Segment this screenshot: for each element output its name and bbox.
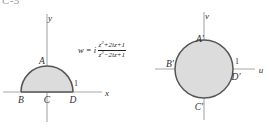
- w-plane-diagram: v u 1 A′ B′ C′ D′: [133, 0, 267, 131]
- point-label-c: C: [44, 95, 51, 105]
- point-label-a: A: [38, 56, 45, 66]
- point-label-a-prime: A′: [195, 34, 205, 44]
- v-axis-label: v: [205, 11, 209, 21]
- point-label-b-prime: B′: [166, 59, 175, 69]
- x-tick-label-1: 1: [74, 79, 78, 88]
- mapping-formula-fraction: z2+2iz+1 z2−2iz+1: [98, 41, 126, 60]
- point-label-b: B: [18, 95, 24, 105]
- y-axis-label: y: [47, 13, 52, 23]
- denominator-rest: −2iz+1: [104, 51, 125, 59]
- mapping-formula: w = i z2+2iz+1 z2−2iz+1: [78, 41, 126, 60]
- complex-mapping-figure: C-5 y x 1 A B C D v u 1: [0, 0, 267, 131]
- point-label-d: D: [69, 95, 77, 105]
- mapping-formula-lead: w = i: [78, 46, 96, 55]
- fraction-denominator: z2−2iz+1: [98, 51, 126, 60]
- point-label-d-prime: D′: [231, 72, 242, 82]
- upper-half-disk-fill: [21, 66, 73, 92]
- u-tick-label-1: 1: [235, 57, 239, 66]
- x-axis-label: x: [104, 88, 109, 98]
- z-plane-diagram: y x 1 A B C D: [0, 0, 133, 131]
- point-label-c-prime: C′: [195, 102, 204, 112]
- u-axis-label: u: [259, 65, 264, 75]
- numerator-rest: +2iz+1: [104, 41, 125, 49]
